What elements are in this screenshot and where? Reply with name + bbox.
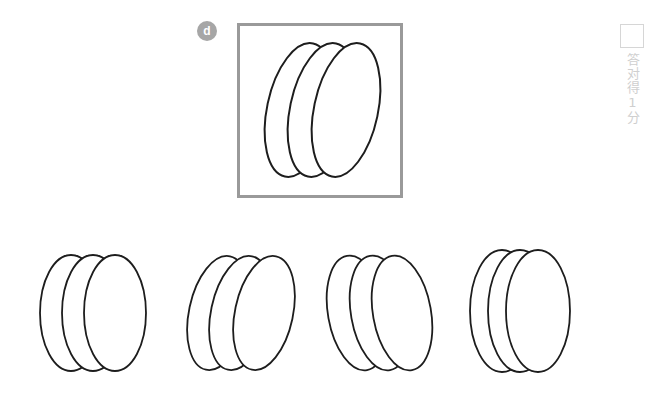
answer-option-4-figure	[448, 240, 598, 385]
question-badge: d	[197, 21, 217, 41]
answer-option-3-figure	[305, 240, 455, 385]
answer-options	[0, 240, 657, 385]
answer-option-1[interactable]	[20, 240, 170, 385]
answer-option-2-figure	[168, 240, 318, 385]
answer-checkbox[interactable]	[620, 24, 644, 48]
option-1-ellipse-3	[84, 255, 146, 371]
stimulus-figure	[240, 26, 400, 195]
option-4-ellipse-3	[506, 250, 570, 372]
answer-option-1-figure	[20, 240, 170, 385]
stimulus-panel	[237, 23, 403, 198]
question-page: d 答对得1分	[0, 0, 657, 395]
score-label: 答对得1分	[624, 53, 640, 125]
answer-option-4[interactable]	[448, 240, 598, 385]
answer-option-3[interactable]	[305, 240, 455, 385]
answer-option-2[interactable]	[168, 240, 318, 385]
score-mark: 答对得1分	[617, 24, 647, 125]
